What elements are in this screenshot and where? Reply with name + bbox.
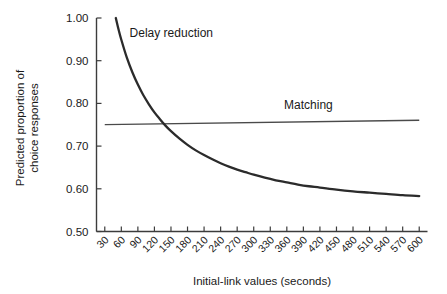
delay-reduction-chart: 0.500.600.700.800.901.00 306090120150180… <box>0 0 447 294</box>
x-axis-title: Initial-link values (seconds) <box>193 275 331 287</box>
x-tick-label: 60 <box>110 233 127 250</box>
y-tick-label: 0.60 <box>66 183 88 195</box>
x-tick-label: 600 <box>404 233 425 254</box>
y-tick-label: 0.90 <box>66 55 88 67</box>
matching-label: Matching <box>284 98 333 112</box>
delay-reduction-curve <box>116 18 419 196</box>
y-axis-tick-labels: 0.500.600.700.800.901.00 <box>66 12 88 238</box>
delay-reduction-label: Delay reduction <box>130 26 213 40</box>
x-axis-tick-labels: 3060901201501802102402703003303603904204… <box>94 233 425 254</box>
y-axis-title-line1: Predicted proportion of <box>14 69 26 186</box>
y-tick-label: 1.00 <box>66 12 88 24</box>
x-tick-label: 30 <box>94 233 111 250</box>
y-tick-label: 0.80 <box>66 97 88 109</box>
matching-line <box>105 120 419 124</box>
y-axis-title-line2: choice responses <box>28 83 40 173</box>
chart-figure: 0.500.600.700.800.901.00 306090120150180… <box>0 0 447 294</box>
y-tick-label: 0.70 <box>66 140 88 152</box>
x-axis-ticks <box>105 227 419 232</box>
y-axis-ticks <box>97 18 102 232</box>
y-tick-label: 0.50 <box>66 226 88 238</box>
